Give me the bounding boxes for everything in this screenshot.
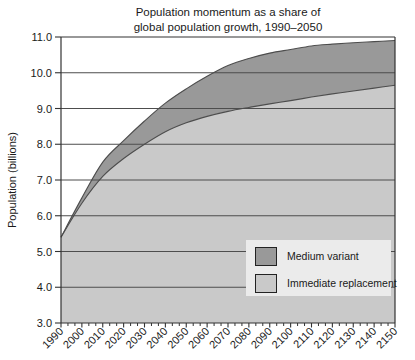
y-tick-label: 6.0: [37, 210, 52, 222]
medium-variant-swatch-icon: [255, 247, 277, 266]
y-tick-label: 3.0: [37, 317, 52, 329]
y-tick-label: 4.0: [37, 281, 52, 293]
y-tick-label: 8.0: [37, 138, 52, 150]
population-momentum-chart: Population momentum as a share of global…: [0, 0, 415, 360]
chart-canvas: 3.04.05.06.07.08.09.010.011.019902000201…: [0, 0, 415, 360]
x-tick-label: 2040: [144, 325, 170, 351]
x-tick-label: 2020: [102, 325, 128, 351]
x-tick-label: 2080: [227, 325, 253, 351]
y-tick-label: 9.0: [37, 103, 52, 115]
y-tick-label: 10.0: [31, 67, 52, 79]
x-tick-label: 2100: [269, 325, 295, 351]
x-tick-label: 2130: [332, 325, 358, 351]
x-tick-label: 2070: [207, 325, 233, 351]
immediate-replacement-swatch-icon: [255, 274, 277, 293]
x-tick-label: 2010: [81, 325, 107, 351]
y-tick-label: 7.0: [37, 174, 52, 186]
x-tick-label: 2090: [248, 325, 274, 351]
y-tick-label: 5.0: [37, 246, 52, 258]
legend-item-immediate-replacement: Immediate replacement: [255, 272, 391, 294]
x-tick-label: 2120: [311, 325, 337, 351]
legend-item-medium-variant: Medium variant: [255, 245, 391, 267]
legend-label-medium-variant: Medium variant: [287, 250, 359, 262]
legend: Medium variant Immediate replacement: [246, 240, 391, 296]
legend-label-immediate-replacement: Immediate replacement: [287, 277, 397, 289]
y-tick-label: 11.0: [31, 31, 52, 43]
x-tick-label: 2150: [374, 325, 400, 351]
x-tick-label: 2030: [123, 325, 149, 351]
x-tick-label: 2000: [60, 325, 86, 351]
x-tick-label: 2110: [291, 325, 316, 350]
x-tick-label: 2050: [165, 325, 191, 351]
x-tick-label: 2060: [186, 325, 212, 351]
x-tick-label: 2140: [353, 325, 379, 351]
